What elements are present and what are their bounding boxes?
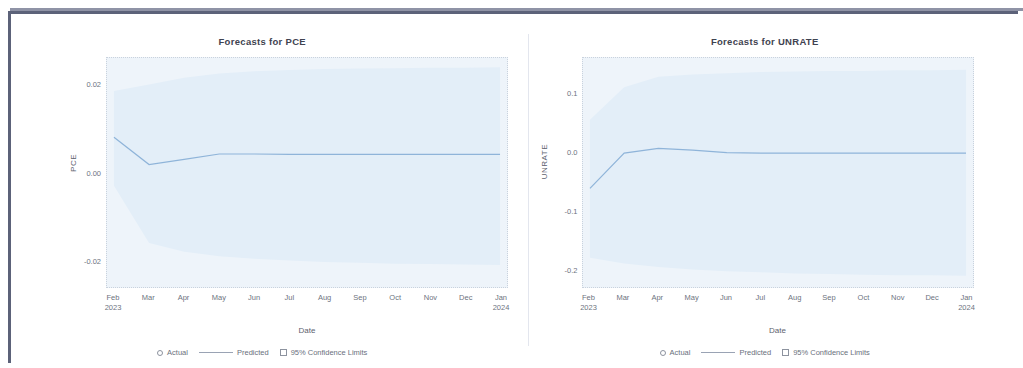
legend-item-circle[interactable]: Actual <box>157 348 188 357</box>
x-tick-label: Jan2024 <box>493 293 510 312</box>
legend-item-square[interactable]: 95% Confidence Limits <box>280 348 368 357</box>
x-tick-label: Jun <box>720 293 732 303</box>
circle-marker-icon <box>660 350 666 356</box>
x-tick-label: Sep <box>822 293 835 303</box>
circle-marker-icon <box>157 350 163 356</box>
x-tick-label: Aug <box>318 293 331 303</box>
legend-item-circle[interactable]: Actual <box>660 348 691 357</box>
y-tick-label: -0.02 <box>84 257 101 266</box>
x-tick-label: Nov <box>424 293 437 303</box>
x-tick-label: Dec <box>925 293 938 303</box>
x-tick-label: May <box>212 293 226 303</box>
x-tick-label: Feb2023 <box>580 293 597 312</box>
x-tick-label: Oct <box>858 293 870 303</box>
forecast-panel-unrate: Forecasts for UNRATE 0.10.0-0.1-0.2 UNRA… <box>514 14 1017 360</box>
y-tick-label: -0.2 <box>565 266 578 275</box>
x-tick-year: 2023 <box>105 303 122 313</box>
chart-title-unrate: Forecasts for UNRATE <box>514 36 1017 47</box>
plot-canvas-unrate <box>583 58 973 287</box>
x-tick-label: Mar <box>142 293 155 303</box>
legend-label: Actual <box>670 348 691 357</box>
legend-label: Predicted <box>739 348 771 357</box>
legend-unrate: ActualPredicted95% Confidence Limits <box>514 348 1017 357</box>
x-tick-label: Apr <box>651 293 663 303</box>
x-tick-label: Nov <box>891 293 904 303</box>
x-axis-ticks-pce: Feb2023MarAprMayJunJulAugSepOctNovDecJan… <box>106 293 508 323</box>
x-tick-label: Sep <box>353 293 366 303</box>
y-axis-title-pce: PCE <box>69 154 78 172</box>
plot-area-pce <box>106 57 508 288</box>
confidence-band <box>114 67 500 265</box>
chart-title-pce: Forecasts for PCE <box>11 36 514 47</box>
y-tick-label: -0.1 <box>565 207 578 216</box>
forecast-panels-container: Forecasts for PCE 0.020.00-0.02 PCE Feb2… <box>11 14 1016 360</box>
x-tick-label: Mar <box>616 293 629 303</box>
x-tick-year: 2024 <box>493 303 510 313</box>
x-tick-label: May <box>684 293 698 303</box>
legend-item-square[interactable]: 95% Confidence Limits <box>782 348 870 357</box>
x-tick-label: Jan2024 <box>958 293 975 312</box>
line-marker-icon <box>701 352 735 353</box>
y-axis-ticks-pce: 0.020.00-0.02 <box>63 57 101 288</box>
x-tick-year: 2024 <box>958 303 975 313</box>
x-tick-label: Jul <box>285 293 295 303</box>
x-tick-label: Apr <box>178 293 190 303</box>
x-axis-ticks-unrate: Feb2023MarAprMayJunJulAugSepOctNovDecJan… <box>582 293 974 323</box>
x-tick-label: Dec <box>459 293 472 303</box>
legend-label: Predicted <box>237 348 269 357</box>
x-tick-year: 2023 <box>580 303 597 313</box>
x-axis-title-unrate: Date <box>582 326 974 335</box>
x-axis-title-pce: Date <box>106 326 508 335</box>
x-tick-label: Oct <box>389 293 401 303</box>
x-tick-label: Aug <box>788 293 801 303</box>
plot-area-unrate <box>582 57 974 288</box>
square-marker-icon <box>782 349 789 356</box>
forecast-panel-pce: Forecasts for PCE 0.020.00-0.02 PCE Feb2… <box>11 14 514 360</box>
x-tick-label: Jun <box>248 293 260 303</box>
confidence-band <box>589 70 965 276</box>
legend-item-line[interactable]: Predicted <box>701 348 771 357</box>
line-marker-icon <box>199 352 233 353</box>
y-tick-label: 0.00 <box>86 168 101 177</box>
legend-label: Actual <box>167 348 188 357</box>
plot-canvas-pce <box>107 58 507 287</box>
x-tick-label: Feb2023 <box>105 293 122 312</box>
y-tick-label: 0.0 <box>567 147 577 156</box>
legend-item-line[interactable]: Predicted <box>199 348 269 357</box>
legend-label: 95% Confidence Limits <box>793 348 870 357</box>
y-tick-label: 0.1 <box>567 88 577 97</box>
y-tick-label: 0.02 <box>86 79 101 88</box>
square-marker-icon <box>280 349 287 356</box>
x-tick-label: Jul <box>756 293 766 303</box>
y-axis-title-unrate: UNRATE <box>540 144 549 179</box>
legend-label: 95% Confidence Limits <box>291 348 368 357</box>
legend-pce: ActualPredicted95% Confidence Limits <box>11 348 514 357</box>
